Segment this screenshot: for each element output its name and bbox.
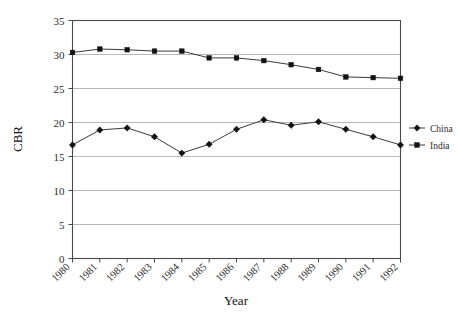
chart-canvas: 05101520253035 1980198119821983198419851… [0, 0, 458, 320]
y-tick-marks [69, 21, 73, 259]
data-point-marker [316, 67, 321, 72]
data-point-marker [98, 47, 103, 52]
x-axis-title: Year [224, 293, 249, 308]
gridlines [73, 55, 401, 225]
data-point-marker [70, 50, 75, 55]
x-tick-label: 1987 [241, 261, 264, 284]
data-point-marker [398, 76, 403, 81]
data-point-marker [180, 49, 185, 54]
series-line [73, 120, 401, 153]
line-chart: 05101520253035 1980198119821983198419851… [0, 0, 458, 320]
data-point-marker [288, 122, 294, 128]
data-point-marker [179, 150, 185, 156]
chart-legend: ChinaIndia [409, 124, 453, 151]
data-point-marker [234, 56, 239, 61]
data-point-marker [69, 142, 75, 148]
x-tick-label: 1991 [350, 261, 373, 284]
y-tick-label: 35 [54, 15, 66, 27]
data-point-marker [289, 62, 294, 67]
x-tick-label: 1981 [77, 261, 100, 284]
legend-item-china[interactable]: China [409, 124, 453, 134]
x-tick-label: 1988 [268, 261, 291, 284]
x-tick-label: 1984 [159, 261, 182, 284]
x-tick-label: 1992 [377, 261, 400, 284]
x-tick-label: 1985 [186, 261, 209, 284]
series-india [70, 47, 403, 81]
x-tick-label: 1989 [295, 261, 318, 284]
y-tick-label: 20 [54, 117, 66, 129]
x-tick-label: 1982 [104, 261, 127, 284]
data-point-marker [233, 126, 239, 132]
data-point-marker [344, 75, 349, 80]
data-point-marker [206, 141, 212, 147]
x-tick-label: 1986 [213, 261, 236, 284]
x-axis-tick-labels: 1980198119821983198419851986198719881989… [49, 261, 400, 284]
legend-label: India [430, 141, 450, 151]
x-tick-label: 1983 [131, 261, 154, 284]
data-point-marker [315, 119, 321, 125]
data-point-marker [262, 58, 267, 63]
data-series-layer [69, 47, 403, 157]
data-point-marker [371, 75, 376, 80]
legend-label: China [430, 124, 453, 134]
y-tick-label: 25 [54, 83, 66, 95]
x-tick-marks [73, 259, 401, 263]
y-tick-label: 10 [54, 185, 66, 197]
legend-item-india[interactable]: India [409, 141, 450, 151]
data-point-marker [397, 142, 403, 148]
data-point-marker [343, 126, 349, 132]
data-point-marker [261, 117, 267, 123]
data-point-marker [124, 125, 130, 131]
y-tick-label: 5 [59, 219, 65, 231]
series-line [73, 49, 401, 78]
legend-marker-swatch [414, 125, 420, 131]
data-point-marker [97, 127, 103, 133]
data-point-marker [207, 56, 212, 61]
y-axis-title: CBR [10, 126, 25, 152]
y-axis-tick-labels: 05101520253035 [54, 15, 66, 265]
data-point-marker [151, 134, 157, 140]
legend-marker-swatch [415, 143, 420, 148]
x-tick-label: 1990 [323, 261, 346, 284]
data-point-marker [152, 49, 157, 54]
data-point-marker [370, 134, 376, 140]
data-point-marker [125, 47, 130, 52]
y-tick-label: 30 [54, 49, 66, 61]
x-tick-label: 1980 [49, 261, 72, 284]
y-tick-label: 15 [54, 151, 66, 163]
